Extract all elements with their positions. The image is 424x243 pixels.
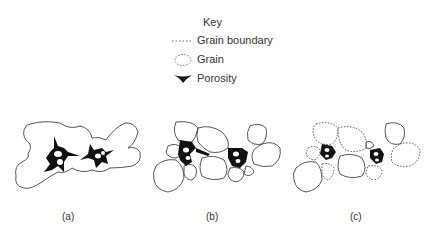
- grain-ellipse-icon: [172, 53, 194, 65]
- key-item-grain: Grain: [172, 52, 224, 66]
- key-item-porosity: Porosity: [172, 71, 237, 85]
- key-item-grain-boundary: Grain boundary: [172, 33, 273, 47]
- key-legend: Key Grain boundary Grain Porosity: [0, 0, 424, 95]
- key-title: Key: [203, 16, 222, 28]
- porosity-icon: [172, 72, 194, 84]
- panel-c-diagram: [290, 118, 424, 200]
- caption-a: (a): [62, 211, 74, 222]
- key-label: Grain: [197, 53, 224, 65]
- panel-b-diagram: [150, 118, 290, 200]
- key-label: Porosity: [197, 72, 237, 84]
- key-label: Grain boundary: [197, 34, 273, 46]
- caption-b: (b): [206, 211, 218, 222]
- panel-a-diagram: [10, 118, 150, 200]
- caption-c: (c): [350, 211, 362, 222]
- dotted-line-icon: [172, 34, 194, 46]
